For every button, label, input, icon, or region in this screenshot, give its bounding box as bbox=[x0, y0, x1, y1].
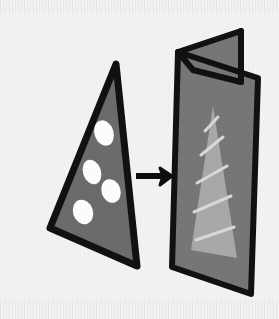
transformation-figure bbox=[0, 0, 279, 319]
diagram-canvas bbox=[0, 0, 279, 319]
